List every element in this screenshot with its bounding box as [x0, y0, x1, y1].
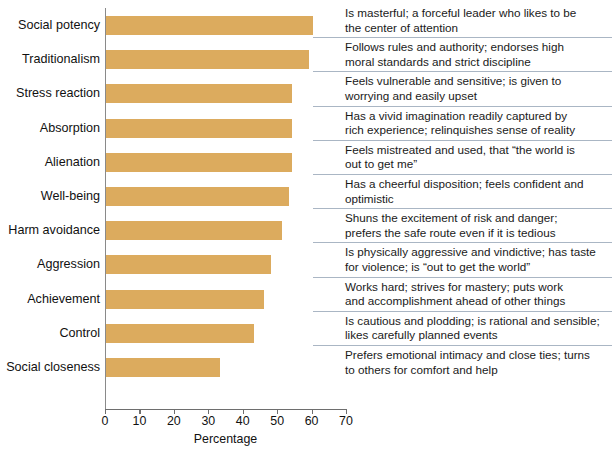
description-separator [313, 106, 612, 107]
description-line: Prefers emotional intimacy and close tie… [345, 348, 607, 363]
description-line: Shuns the excitement of risk and danger; [345, 211, 607, 226]
x-axis-tick-label: 70 [326, 414, 366, 428]
x-axis-title: Percentage [105, 432, 346, 446]
bar [106, 16, 313, 35]
bar-chart-figure: Social potencyTraditionalismStress react… [0, 0, 614, 456]
bar [106, 153, 292, 172]
bar [106, 358, 220, 377]
description-separator [313, 174, 612, 175]
description-line: Is masterful; a forceful leader who like… [345, 6, 607, 21]
category-label: Social potency [0, 8, 100, 42]
category-label: Stress reaction [0, 76, 100, 110]
category-label: Harm avoidance [0, 213, 100, 247]
description-line: the center of attention [345, 21, 607, 36]
category-label: Aggression [0, 247, 100, 281]
description-line: Feels vulnerable and sensitive; is given… [345, 74, 607, 89]
trait-description: Works hard; strives for mastery; puts wo… [345, 280, 607, 309]
description-line: Is cautious and plodding; is rational an… [345, 314, 607, 329]
x-axis-line [105, 409, 346, 410]
bar [106, 187, 289, 206]
description-line: rich experience; relinquishes sense of r… [345, 123, 607, 138]
description-line: moral standards and strict discipline [345, 55, 607, 70]
description-separator [313, 311, 612, 312]
trait-description: Feels vulnerable and sensitive; is given… [345, 74, 607, 103]
category-label: Traditionalism [0, 42, 100, 76]
description-line: Works hard; strives for mastery; puts wo… [345, 280, 607, 295]
description-line: Has a vivid imagination readily captured… [345, 109, 607, 124]
description-line: optimistic [345, 192, 607, 207]
description-separator [313, 242, 612, 243]
description-line: Follows rules and authority; endorses hi… [345, 40, 607, 55]
description-separator [313, 277, 612, 278]
trait-description: Has a cheerful disposition; feels confid… [345, 177, 607, 206]
description-line: and accomplishment ahead of other things [345, 294, 607, 309]
trait-description: Feels mistreated and used, that “the wor… [345, 143, 607, 172]
description-line: Feels mistreated and used, that “the wor… [345, 143, 607, 158]
description-separator [313, 71, 612, 72]
trait-description: Prefers emotional intimacy and close tie… [345, 348, 607, 377]
bar [106, 221, 282, 240]
trait-description: Shuns the excitement of risk and danger;… [345, 211, 607, 240]
description-line: Is physically aggressive and vindictive;… [345, 245, 607, 260]
description-line: out to get me” [345, 157, 607, 172]
description-separator [313, 345, 612, 346]
category-label: Alienation [0, 145, 100, 179]
bar [106, 119, 292, 138]
bar [106, 84, 292, 103]
description-line: likes carefully planned events [345, 328, 607, 343]
description-line: to others for comfort and help [345, 363, 607, 378]
description-line: for violence; is “out to get the world” [345, 260, 607, 275]
description-separator [313, 140, 612, 141]
trait-description: Is cautious and plodding; is rational an… [345, 314, 607, 343]
category-label: Social closeness [0, 350, 100, 384]
trait-description: Follows rules and authority; endorses hi… [345, 40, 607, 69]
description-separator [313, 37, 612, 38]
category-label: Well-being [0, 179, 100, 213]
description-line: Has a cheerful disposition; feels confid… [345, 177, 607, 192]
trait-description: Is masterful; a forceful leader who like… [345, 6, 607, 35]
description-line: worrying and easily upset [345, 89, 607, 104]
trait-description: Has a vivid imagination readily captured… [345, 109, 607, 138]
bar [106, 324, 254, 343]
bar [106, 255, 271, 274]
description-separator [313, 208, 612, 209]
bar [106, 50, 309, 69]
description-line: prefers the safe route even if it is ted… [345, 226, 607, 241]
bar [106, 290, 264, 309]
category-label: Absorption [0, 111, 100, 145]
category-label: Achievement [0, 282, 100, 316]
category-label: Control [0, 316, 100, 350]
trait-description: Is physically aggressive and vindictive;… [345, 245, 607, 274]
